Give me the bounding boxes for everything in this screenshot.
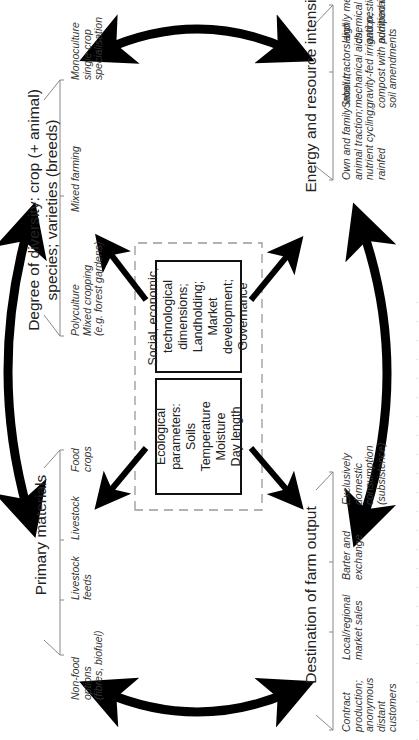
item-line: soil amendments: [387, 0, 399, 108]
item-line: Livestock: [70, 556, 82, 600]
diversity-item-monoculture: Monoculture single crop specialisation: [70, 17, 105, 80]
item-line: Mixed farming: [70, 146, 82, 212]
item-line: crops: [82, 446, 94, 472]
ecological-line-4: Moisture: [214, 380, 229, 493]
social-line-4: Landholding;: [191, 262, 206, 371]
item-line: Contract: [341, 678, 353, 732]
arrow-to-primary: [106, 448, 146, 496]
item-line: (fibres, biofuel): [93, 631, 105, 700]
item-line: Local/regional: [341, 595, 353, 660]
arrow-to-energy: [251, 250, 292, 300]
item-line: Exclusively: [341, 443, 353, 505]
social-line-3: dimensions;: [176, 262, 191, 371]
item-line: consumption: [364, 443, 376, 505]
social-line-5: Market development;: [206, 262, 236, 371]
destination-item-barter: Barter and exchange: [341, 531, 364, 580]
destination-item-local-market: Local/regional market sales: [341, 595, 364, 660]
item-line: pumped irrigation: [376, 0, 388, 43]
item-line: specialisation: [93, 17, 105, 80]
destination-item-contract: Contract production; anonymous distant c…: [341, 678, 399, 732]
item-line: (subsistence): [376, 443, 388, 505]
primary-item-food-crops: Food crops: [70, 446, 93, 472]
curved-arrow-right: [104, 29, 290, 50]
item-line: customers: [387, 678, 399, 732]
ecological-line-5: Day length: [229, 380, 244, 493]
diversity-title-line-2: species; varieties (breeds): [43, 75, 61, 345]
diagram-canvas: Ecological parameters: Soils Temperature…: [0, 0, 419, 740]
curved-arrow-left: [104, 692, 290, 712]
item-line: Food: [70, 446, 82, 472]
ecological-line-1: Ecological parameters:: [154, 380, 184, 493]
arrow-to-diversity: [106, 248, 146, 300]
primary-materials-title: Primary materials: [32, 460, 50, 610]
primary-item-non-food: Non-food options (fibres, biofuel): [70, 631, 105, 700]
primary-item-livestock-feeds: Livestock feeds: [70, 556, 93, 600]
diversity-item-mixed-farming: Mixed farming: [70, 146, 82, 212]
diversity-title: Degree of diversity: crop (+ animal) spe…: [25, 75, 61, 345]
energy-title: Energy and resource intensity: [302, 0, 320, 210]
diversity-title-line-1: Degree of diversity: crop (+ animal): [25, 75, 43, 345]
item-line: Barter and: [341, 531, 353, 580]
destination-title: Destination of farm output: [302, 495, 320, 695]
energy-item-high: Highly mechanized; chemical fertilizers …: [341, 0, 387, 43]
social-line-1: Social, economic,: [146, 262, 161, 371]
social-economic-box: Social, economic, technological dimensio…: [155, 260, 242, 373]
item-line: Highly mechanized;: [341, 0, 353, 43]
item-line: market sales: [353, 595, 365, 660]
ecological-line-2: Soils: [184, 380, 199, 493]
item-line: Non-food: [70, 631, 82, 700]
ecological-line-3: Temperature: [199, 380, 214, 493]
item-line: Monoculture: [70, 17, 82, 80]
item-line: Livestock: [70, 496, 82, 540]
item-line: (e.g. forest gardens): [93, 241, 105, 336]
social-line-2: technological: [161, 262, 176, 371]
diversity-item-polyculture: Polyculture Mixed cropping (e.g. forest …: [70, 241, 105, 336]
social-line-6: Governance: [236, 262, 251, 371]
ecological-parameters-box: Ecological parameters: Soils Temperature…: [155, 378, 242, 495]
item-line: exchange: [353, 531, 365, 580]
item-line: anonymous: [364, 678, 376, 732]
item-line: and pesticides;: [364, 0, 376, 43]
item-line: Polyculture: [70, 241, 82, 336]
destination-item-subsistence: Exclusively domestic consumption (subsis…: [341, 443, 387, 505]
item-line: feeds: [82, 556, 94, 600]
arrow-to-destination: [251, 448, 292, 496]
primary-item-livestock: Livestock: [70, 496, 82, 540]
